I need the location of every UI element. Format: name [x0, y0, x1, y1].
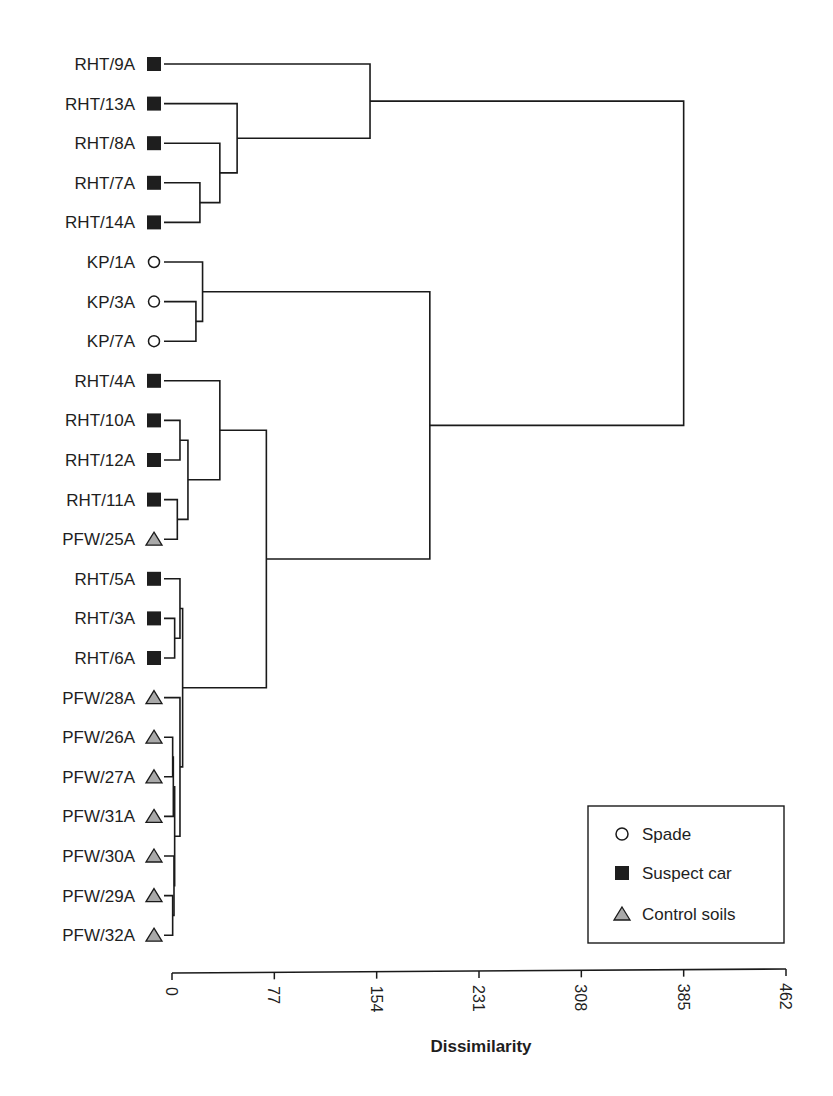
triangle-gray-icon [146, 809, 162, 822]
x-tick-label: 77 [265, 986, 282, 1004]
leaf-rht-6a: RHT/6A [75, 649, 161, 668]
leaf-label: RHT/4A [75, 372, 136, 391]
leaf-rht-8a: RHT/8A [75, 134, 161, 153]
leaf-label: PFW/25A [62, 530, 135, 549]
leaf-label: PFW/26A [62, 728, 135, 747]
leaf-label: RHT/12A [65, 451, 136, 470]
leaf-pfw-30a: PFW/30A [62, 847, 162, 866]
branch-m13 [164, 737, 173, 777]
branch-m5 [164, 302, 196, 342]
leaf-label: PFW/27A [62, 768, 135, 787]
branch-m6 [164, 262, 203, 321]
leaf-label: PFW/29A [62, 887, 135, 906]
square-filled-icon [147, 374, 161, 388]
leaf-pfw-29a: PFW/29A [62, 887, 162, 906]
branch-m1 [164, 183, 200, 223]
leaf-label: RHT/14A [65, 213, 136, 232]
leaf-label: KP/1A [87, 253, 136, 272]
legend-label: Control soils [642, 905, 736, 924]
leaf-kp-7a: KP/7A [87, 332, 160, 351]
leaf-rht-11a: RHT/11A [66, 491, 161, 510]
square-filled-icon [147, 413, 161, 427]
leaf-label: KP/7A [87, 332, 136, 351]
leaf-label: RHT/8A [75, 134, 136, 153]
square-filled-icon [147, 611, 161, 625]
leaf-kp-3a: KP/3A [87, 293, 160, 312]
leaf-pfw-26a: PFW/26A [62, 728, 162, 747]
square-filled-icon [147, 97, 161, 111]
circle-open-icon [149, 257, 160, 268]
leaf-label: RHT/10A [65, 411, 136, 430]
leaf-rht-10a: RHT/10A [65, 411, 161, 430]
branch-m7 [164, 420, 180, 460]
leaf-pfw-32a: PFW/32A [62, 926, 162, 945]
circle-open-icon [616, 828, 628, 840]
branch-m22 [370, 101, 684, 425]
square-filled-icon [147, 651, 161, 665]
leaf-label: PFW/31A [62, 807, 135, 826]
dendrogram-branches [164, 64, 684, 935]
square-filled-icon [147, 136, 161, 150]
triangle-gray-icon [146, 889, 162, 902]
leaf-label: PFW/30A [62, 847, 135, 866]
square-filled-icon [147, 57, 161, 71]
legend-label: Spade [642, 825, 691, 844]
triangle-gray-icon [146, 532, 162, 545]
square-filled-icon [147, 493, 161, 507]
x-tick-label: 308 [572, 984, 589, 1011]
branch-m10 [164, 381, 220, 480]
x-axis: 077154231308385462 [163, 969, 794, 1012]
x-axis-title: Dissimilarity [430, 1037, 532, 1056]
branch-m15 [164, 896, 173, 936]
leaf-rht-13a: RHT/13A [65, 95, 161, 114]
leaf-rht-4a: RHT/4A [75, 372, 161, 391]
leaf-kp-1a: KP/1A [87, 253, 160, 272]
legend-label: Suspect car [642, 864, 732, 883]
square-filled-icon [147, 572, 161, 586]
leaf-rht-5a: RHT/5A [75, 570, 161, 589]
leaf-labels: RHT/9ARHT/13ARHT/8ARHT/7ARHT/14AKP/1AKP/… [62, 55, 162, 945]
leaf-label: PFW/32A [62, 926, 135, 945]
leaf-rht-9a: RHT/9A [75, 55, 161, 74]
branch-m4 [164, 64, 370, 138]
leaf-rht-3a: RHT/3A [75, 609, 161, 628]
leaf-rht-12a: RHT/12A [65, 451, 161, 470]
branch-m12 [164, 579, 180, 638]
branch-m9 [177, 440, 188, 519]
branch-m20 [183, 430, 267, 687]
triangle-gray-icon [146, 691, 162, 704]
leaf-rht-7a: RHT/7A [75, 174, 161, 193]
square-filled-icon [147, 176, 161, 190]
branch-m11 [164, 618, 175, 658]
leaf-pfw-25a: PFW/25A [62, 530, 162, 549]
legend: Spade Suspect car Control soils [588, 806, 784, 943]
x-tick-label: 462 [777, 983, 794, 1010]
leaf-label: RHT/13A [65, 95, 136, 114]
leaf-label: RHT/9A [75, 55, 136, 74]
x-tick-label: 385 [675, 984, 692, 1011]
x-tick-label: 231 [470, 985, 487, 1012]
triangle-gray-icon [146, 770, 162, 783]
triangle-gray-icon [146, 928, 162, 941]
leaf-label: RHT/11A [66, 491, 135, 510]
leaf-pfw-28a: PFW/28A [62, 689, 162, 708]
leaf-label: RHT/7A [75, 174, 136, 193]
leaf-label: KP/3A [87, 293, 136, 312]
leaf-label: RHT/3A [75, 609, 136, 628]
x-tick-label: 154 [368, 986, 385, 1013]
leaf-pfw-31a: PFW/31A [62, 807, 162, 826]
branch-m2 [164, 143, 220, 202]
leaf-rht-14a: RHT/14A [65, 213, 161, 232]
circle-open-icon [149, 296, 160, 307]
leaf-pfw-27a: PFW/27A [62, 768, 162, 787]
square-filled-icon [147, 215, 161, 229]
triangle-gray-icon [146, 849, 162, 862]
dendrogram-chart: RHT/9ARHT/13ARHT/8ARHT/7ARHT/14AKP/1AKP/… [0, 0, 833, 1096]
leaf-label: RHT/5A [75, 570, 136, 589]
branch-m3 [164, 104, 237, 173]
leaf-label: RHT/6A [75, 649, 136, 668]
x-tick-label: 0 [163, 987, 180, 996]
branch-m8 [164, 500, 177, 540]
branch-m21 [203, 292, 430, 559]
square-filled-icon [147, 453, 161, 467]
